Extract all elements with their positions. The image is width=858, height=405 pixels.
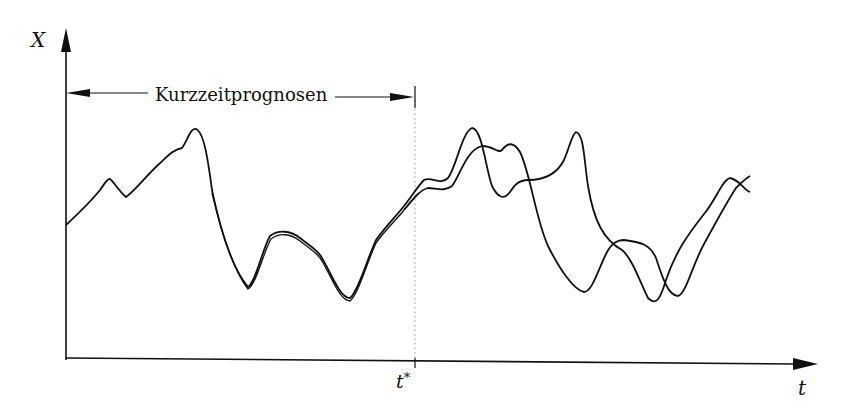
span-right-arrowhead-icon — [390, 93, 414, 101]
span-left-arrowhead-icon — [66, 89, 90, 97]
t-star-label-base: t — [396, 370, 404, 392]
diagram-canvas — [0, 0, 858, 405]
t-star-label-superscript: * — [404, 370, 411, 385]
trajectory-2 — [404, 144, 750, 296]
t-star-label: t* — [396, 370, 410, 392]
trajectory-1 — [404, 128, 750, 301]
x-axis-label: t — [798, 376, 806, 400]
span-label: Kurzzeitprognosen — [152, 84, 330, 105]
x-axis-arrowhead-icon — [793, 358, 818, 370]
x-axis — [66, 358, 800, 364]
y-axis-label: X — [31, 28, 45, 52]
y-axis-arrowhead-icon — [61, 28, 71, 52]
trajectory-shared — [66, 129, 404, 298]
trajectory-shared-offset — [212, 193, 404, 301]
